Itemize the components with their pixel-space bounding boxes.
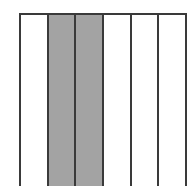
shaded-strip <box>49 15 77 186</box>
unshaded-strip <box>159 15 185 186</box>
unshaded-strip <box>132 15 160 186</box>
unshaded-strip <box>104 15 132 186</box>
fraction-grid <box>19 13 187 186</box>
shaded-strip <box>76 15 104 186</box>
unshaded-strip <box>21 15 49 186</box>
